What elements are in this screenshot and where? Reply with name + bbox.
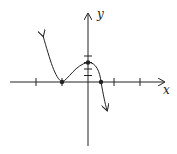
graph-canvas: y x xyxy=(0,0,177,154)
point-y-intercept xyxy=(86,60,90,64)
point-double-root xyxy=(60,80,64,84)
point-root xyxy=(99,80,103,84)
function-curve xyxy=(43,36,107,110)
y-axis-label: y xyxy=(96,7,104,21)
x-axis-label: x xyxy=(163,83,170,97)
